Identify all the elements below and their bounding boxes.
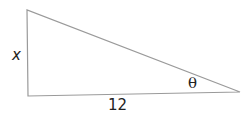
right-triangle xyxy=(27,10,240,96)
angle-label-theta: θ xyxy=(188,76,197,91)
side-label-x: x xyxy=(12,48,21,63)
side-label-base: 12 xyxy=(108,98,127,113)
